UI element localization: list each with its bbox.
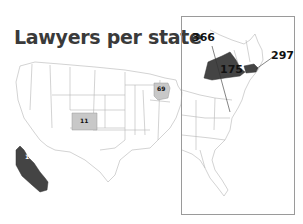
label-massachusetts: 297 (271, 49, 294, 62)
us-outline (16, 62, 182, 182)
label-dc: 366 (192, 31, 215, 44)
label-ohio: 69 (157, 85, 165, 92)
inset-frame (181, 16, 295, 215)
label-colorado: 11 (80, 117, 88, 124)
label-california: 104 (25, 153, 38, 160)
label-new-york: 175 (220, 63, 243, 76)
